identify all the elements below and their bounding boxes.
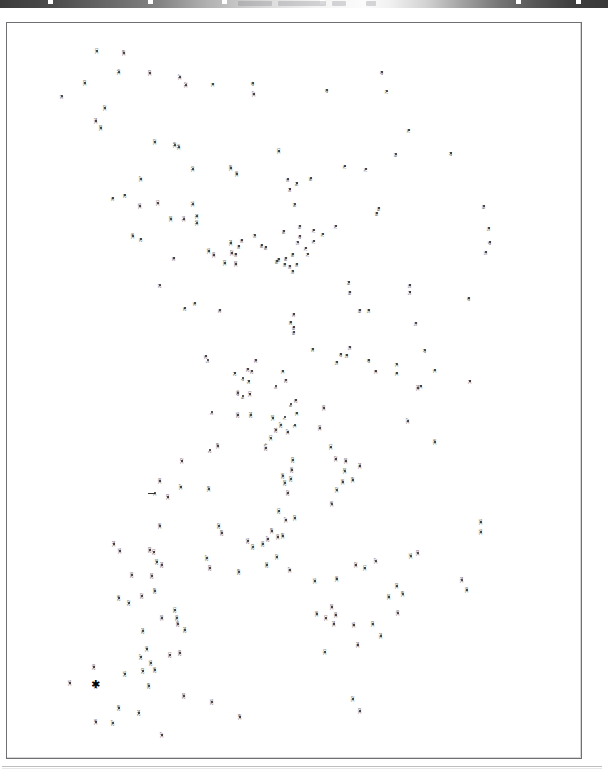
dot-number-label: 107 xyxy=(253,91,257,97)
dot-number-label: 143 xyxy=(167,494,171,500)
dot-number-label: 175 xyxy=(410,553,414,559)
dot-number-label: 222 xyxy=(218,523,222,529)
dot-number-label: 186 xyxy=(336,576,340,582)
dot-number-label: 16 xyxy=(396,372,400,376)
dot-number-label: 148 xyxy=(239,714,243,720)
dot-number-label: 201 xyxy=(278,508,282,514)
dot-number-label: 51 xyxy=(415,322,419,326)
dot-number-label: 196 xyxy=(316,611,320,617)
dot-number-label: 4 xyxy=(242,379,246,381)
dot-number-label: 53 xyxy=(336,361,340,365)
scan-ghost-text xyxy=(278,1,326,6)
dot-number-label: 225 xyxy=(211,699,215,705)
dot-number-label: 125 xyxy=(139,203,143,209)
dot-number-label: 139 xyxy=(159,478,163,484)
dot-number-label: 215 xyxy=(247,538,251,544)
dot-number-label: 42 xyxy=(326,89,330,93)
dot-number-label: 165 xyxy=(480,519,484,525)
dot-number-label: 180 xyxy=(388,594,392,600)
dot-number-label: 63 xyxy=(483,205,487,209)
dot-number-label: 56 xyxy=(409,284,413,288)
scan-ghost-text xyxy=(332,1,346,6)
dot-number-label: 169 xyxy=(466,587,470,593)
dot-number-label: 152 xyxy=(352,696,356,702)
dot-number-label: 104 xyxy=(230,240,234,246)
dot-number-label: 71 xyxy=(365,168,369,172)
dot-number-label: 223 xyxy=(209,565,213,571)
dot-number-label: 41b xyxy=(237,390,241,396)
dot-number-label: 54 xyxy=(409,291,413,295)
dot-number-label: 195 xyxy=(314,578,318,584)
dot-number-label: 74 xyxy=(307,253,311,257)
scan-ghost-text xyxy=(366,1,376,6)
dot-number-label: 65 xyxy=(293,331,297,335)
dot-number-label: 137 xyxy=(180,484,184,490)
dot-number-label: 1 xyxy=(154,494,158,496)
dot-number-label: 112 xyxy=(185,83,189,89)
dot-number-label: 40 xyxy=(252,82,256,86)
dot-number-label: 39 xyxy=(293,313,297,317)
dot-number-label: 131 xyxy=(96,48,100,54)
dot-number-label: 44 xyxy=(450,152,454,156)
dot-number-label: 88 xyxy=(278,258,282,262)
dot-number-label: 20 xyxy=(295,399,299,403)
dot-number-label: 41 xyxy=(299,235,303,239)
dot-number-label: 168 xyxy=(352,477,356,483)
dot-number-label: 210 xyxy=(284,480,288,486)
dot-number-label: 97 xyxy=(254,234,258,238)
dot-number-label: 238 xyxy=(148,683,152,689)
dot-number-label: 75 xyxy=(313,240,317,244)
dot-number-label: 246 xyxy=(118,595,122,601)
scan-ghost-text xyxy=(238,1,272,6)
dot-number-label: 113 xyxy=(192,167,196,173)
dot-number-label: 66 xyxy=(293,326,297,330)
dot-number-label: 102 xyxy=(231,250,235,256)
dot-number-label: 34 xyxy=(248,380,252,384)
dot-number-label: 147 xyxy=(161,732,165,738)
dot-number-label: 156 xyxy=(434,439,438,445)
scan-nick xyxy=(148,0,153,4)
dot-number-label: 119 xyxy=(118,70,122,76)
dot-number-label: 59 xyxy=(488,227,492,231)
scan-nick xyxy=(516,0,521,4)
dot-number-label: 135 xyxy=(119,548,123,554)
dot-number-label: 37 xyxy=(61,95,65,99)
dot-number-label: 247 xyxy=(140,654,144,660)
dot-number-label: 164 xyxy=(359,463,363,469)
dot-number-label: 244 xyxy=(138,710,142,716)
dot-number-label: 120 xyxy=(170,216,174,222)
dot-number-label: 15 xyxy=(434,369,438,373)
dot-number-label: 9 xyxy=(275,387,279,389)
dot-number-label: 84 xyxy=(296,182,300,186)
dot-number-label: 235 xyxy=(150,660,154,666)
dot-number-label: 221 xyxy=(174,607,178,613)
dot-number-label: 98 xyxy=(235,253,239,257)
dot-number-label: 192 xyxy=(276,554,280,560)
dot-number-label: 157 xyxy=(407,418,411,424)
dot-number-label: 146 xyxy=(95,719,99,725)
dot-number-label: 163 xyxy=(396,583,400,589)
dot-number-label: 132 xyxy=(104,105,108,111)
scan-nick xyxy=(576,0,581,4)
dot-number-label: 35 xyxy=(194,302,198,306)
dot-number-label: 68 xyxy=(376,212,380,216)
dot-number-label: 151 xyxy=(324,649,328,655)
dot-number-label: 21 xyxy=(285,379,289,383)
dot-number-label: 114 xyxy=(183,217,187,223)
dot-number-label: 43 xyxy=(381,71,385,75)
dot-number-label: 212 xyxy=(290,476,294,482)
dot-number-label: 249 xyxy=(93,664,97,670)
dot-number-label: 87 xyxy=(294,203,298,207)
dot-number-label: 189 xyxy=(335,612,339,618)
dot-number-label: 46 xyxy=(468,297,472,301)
dot-number-label: 80 xyxy=(292,253,296,257)
dot-number-label: 57 xyxy=(297,241,301,245)
dot-number-label: 226 xyxy=(177,621,181,627)
dot-number-label: 12 xyxy=(212,83,216,87)
dot-to-dot-canvas[interactable]: 1234567891011121314151617181920212223242… xyxy=(7,23,583,760)
dot-number-label: 67 xyxy=(395,153,399,157)
dot-number-label: 172 xyxy=(336,487,340,493)
dot-number-label: 11 xyxy=(294,425,298,429)
dot-number-label: 220 xyxy=(183,693,187,699)
dot-number-label: 167 xyxy=(287,429,291,435)
